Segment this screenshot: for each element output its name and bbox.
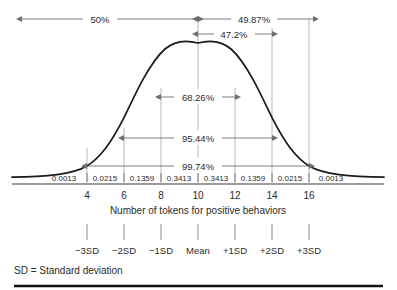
annotation-span-472: 47.2%: [198, 26, 272, 41]
sd-label-plus3sd: +3SD: [297, 245, 321, 256]
x-axis-title: Number of tokens for positive behaviors: [110, 205, 286, 216]
x-tick-4: 4: [84, 190, 90, 201]
sd-label-plus1sd: +1SD: [223, 245, 247, 256]
span-6826-label: 68.26%: [182, 92, 215, 103]
sd-label-plus2sd: +2SD: [260, 245, 284, 256]
sd-label-minus2sd: −2SD: [112, 245, 136, 256]
figure-canvas: 50% 49.87% 47.2% 68.26% 95.44% 99.74%: [0, 0, 397, 290]
annotation-span-4987: 49.87%: [198, 11, 313, 26]
footnote-sd-definition: SD = Standard deviation: [14, 265, 123, 276]
proportion-label-6: 0.1359: [241, 174, 266, 183]
proportion-label-2: 0.0215: [93, 174, 118, 183]
annotation-span-9974: 99.74%: [87, 158, 309, 173]
sd-labels: −3SD −2SD −1SD Mean +1SD +2SD +3SD: [75, 245, 321, 256]
sd-label-mean: Mean: [186, 245, 210, 256]
sd-label-minus3sd: −3SD: [75, 245, 99, 256]
x-tick-16: 16: [303, 190, 315, 201]
proportion-label-7: 0.0215: [278, 174, 303, 183]
proportion-separators: [87, 173, 309, 182]
x-tick-6: 6: [121, 190, 127, 201]
annotation-span-9544: 95.44%: [124, 130, 272, 145]
span-50-label: 50%: [90, 14, 110, 25]
x-tick-14: 14: [266, 190, 278, 201]
span-472-label: 47.2%: [221, 29, 248, 40]
proportion-label-4: 0.3413: [167, 174, 192, 183]
x-tick-8: 8: [158, 190, 164, 201]
span-9974-label: 99.74%: [182, 161, 215, 172]
sd-connector-ticks: [87, 224, 309, 240]
proportion-label-8: 0.0013: [319, 174, 344, 183]
x-tick-labels: 4 6 8 10 12 14 16: [84, 190, 315, 201]
proportion-label-5: 0.3413: [204, 174, 229, 183]
normal-distribution-figure: 50% 49.87% 47.2% 68.26% 95.44% 99.74%: [0, 0, 397, 290]
x-tick-10: 10: [192, 190, 204, 201]
annotation-span-50: 50%: [22, 11, 198, 26]
annotation-span-6826: 68.26%: [161, 89, 235, 104]
x-tick-12: 12: [229, 190, 241, 201]
span-9544-label: 95.44%: [182, 133, 215, 144]
proportion-label-1: 0.0013: [52, 174, 77, 183]
proportion-label-3: 0.1359: [130, 174, 155, 183]
sd-label-minus1sd: −1SD: [149, 245, 173, 256]
span-4987-label: 49.87%: [238, 14, 271, 25]
